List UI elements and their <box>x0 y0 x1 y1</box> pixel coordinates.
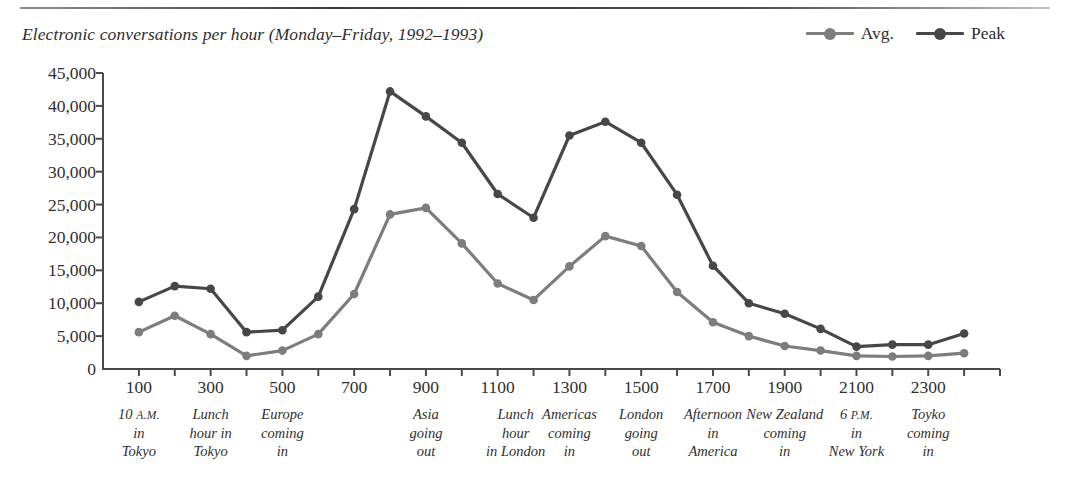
data-point <box>816 325 825 334</box>
x-tick-label: 1300 <box>552 377 587 398</box>
annotation-line: Afternoon <box>684 405 742 424</box>
data-point <box>170 282 179 291</box>
data-point <box>673 190 682 199</box>
x-tick-label: 100 <box>126 377 152 398</box>
data-point <box>888 340 897 349</box>
x-axis-annotation: Americascomingin <box>542 405 597 461</box>
annotation-line: Tokyo <box>189 442 231 461</box>
annotation-line: Tokyo <box>118 442 160 461</box>
data-point <box>852 342 861 351</box>
data-point <box>888 352 897 361</box>
data-point <box>350 290 359 299</box>
y-tick-label: 10,000 <box>48 293 96 314</box>
annotation-line: out <box>409 442 442 461</box>
annotation-line: in <box>118 424 160 443</box>
y-tick-label: 20,000 <box>48 227 96 248</box>
data-point <box>493 190 502 199</box>
annotation-line: coming <box>261 424 304 443</box>
axis-spine <box>103 73 1000 369</box>
annotation-line: America <box>684 442 742 461</box>
x-tick-label: 1700 <box>695 377 730 398</box>
annotation-line: Americas <box>542 405 597 424</box>
y-tick-label: 30,000 <box>48 161 96 182</box>
data-point <box>924 340 933 349</box>
data-point <box>386 210 395 219</box>
annotation-line: New Zealand <box>746 405 823 424</box>
data-point <box>709 261 718 270</box>
y-tick-label: 15,000 <box>48 260 96 281</box>
annotation-line: out <box>619 442 663 461</box>
data-point <box>278 346 287 355</box>
annotation-line: hour in <box>189 424 231 443</box>
annotation-line: Lunch <box>189 405 231 424</box>
annotation-line: Europe <box>261 405 304 424</box>
x-axis-annotation: Lunchhour inTokyo <box>189 405 231 461</box>
annotation-line: Asia <box>409 405 442 424</box>
data-point <box>493 279 502 288</box>
data-point <box>852 352 861 361</box>
x-tick-label: 1100 <box>480 377 514 398</box>
x-tick-label: 700 <box>341 377 367 398</box>
data-point <box>206 330 215 339</box>
data-point <box>673 288 682 297</box>
x-axis-annotation: Londongoingout <box>619 405 663 461</box>
y-tick-label: 40,000 <box>48 95 96 116</box>
annotation-line: in <box>542 442 597 461</box>
data-point <box>816 346 825 355</box>
data-point <box>780 342 789 351</box>
x-axis-annotation: Lunchhourin London <box>486 405 545 461</box>
data-point <box>242 352 251 361</box>
annotation-line: coming <box>907 424 950 443</box>
data-point <box>960 349 969 358</box>
annotation-line: in <box>746 442 823 461</box>
x-axis-annotation: New Zealandcomingin <box>746 405 823 461</box>
x-tick-label: 300 <box>198 377 224 398</box>
annotation-line: Lunch <box>486 405 545 424</box>
data-point <box>565 131 574 140</box>
data-point <box>637 138 646 147</box>
plot-area: 05,00010,00015,00020,00025,00030,00035,0… <box>0 0 1065 495</box>
annotation-line: 10 A.M. <box>118 405 160 424</box>
data-point <box>709 318 718 327</box>
annotation-line: in <box>907 442 950 461</box>
x-axis-annotation: Europecomingin <box>261 405 304 461</box>
y-tick-label: 5,000 <box>57 326 96 347</box>
data-point <box>458 239 467 248</box>
annotation-line: 6 P.M. <box>829 405 884 424</box>
data-point <box>637 242 646 251</box>
series-line-avg <box>139 208 964 357</box>
annotation-smallcaps: A.M. <box>136 409 160 421</box>
annotation-line: London <box>619 405 663 424</box>
data-point <box>422 112 431 121</box>
x-axis-annotation: 10 A.M.inTokyo <box>118 405 160 461</box>
annotation-line: Toyko <box>907 405 950 424</box>
annotation-line: in <box>261 442 304 461</box>
data-point <box>780 309 789 318</box>
annotation-line: coming <box>542 424 597 443</box>
data-point <box>386 87 395 96</box>
x-axis-annotation: Toykocomingin <box>907 405 950 461</box>
y-tick-label: 45,000 <box>48 63 96 84</box>
data-point <box>170 311 179 320</box>
y-tick-label: 25,000 <box>48 194 96 215</box>
x-axis-annotation: 6 P.M.inNew York <box>829 405 884 461</box>
annotation-line: in <box>829 424 884 443</box>
y-axis-labels: 05,00010,00015,00020,00025,00030,00035,0… <box>0 0 96 495</box>
data-point <box>565 262 574 271</box>
x-axis-annotation: AfternooninAmerica <box>684 405 742 461</box>
x-tick-label: 2300 <box>911 377 946 398</box>
series-line-peak <box>139 91 964 346</box>
figure-root: Electronic conversations per hour (Monda… <box>0 0 1065 495</box>
annotation-line: coming <box>746 424 823 443</box>
annotation-line: in London <box>486 442 545 461</box>
annotation-line: New York <box>829 442 884 461</box>
data-point <box>924 352 933 361</box>
data-point <box>422 204 431 213</box>
x-tick-label: 900 <box>413 377 439 398</box>
data-point <box>960 329 969 338</box>
data-point <box>601 232 610 241</box>
data-point <box>314 292 323 301</box>
x-tick-label: 1900 <box>767 377 802 398</box>
x-tick-label: 2100 <box>839 377 874 398</box>
annotation-line: hour <box>486 424 545 443</box>
